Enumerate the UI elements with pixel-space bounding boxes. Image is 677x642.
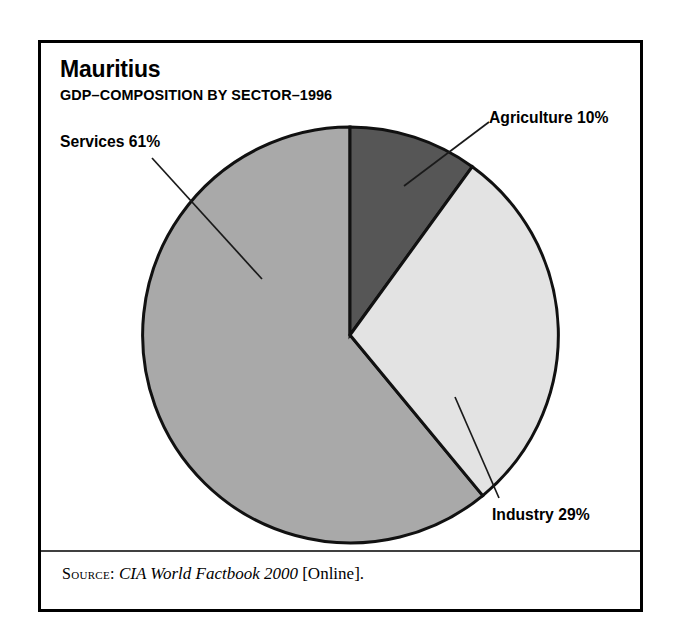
source-note: Source: CIA World Factbook 2000 [Online]… <box>62 563 364 585</box>
source-label: Source: <box>62 565 115 582</box>
figure-root: Mauritius GDP–COMPOSITION BY SECTOR–1996… <box>0 0 677 642</box>
label-agriculture: Agriculture 10% <box>489 108 608 127</box>
chart-subtitle: GDP–COMPOSITION BY SECTOR–1996 <box>60 85 451 104</box>
label-industry: Industry 29% <box>492 505 590 524</box>
label-services: Services 61% <box>60 132 160 151</box>
title-block: Mauritius GDP–COMPOSITION BY SECTOR–1996 <box>60 56 480 104</box>
source-availability: [Online]. <box>302 564 364 583</box>
page-title: Mauritius <box>60 56 480 82</box>
source-work-title: CIA World Factbook 2000 <box>119 564 298 583</box>
